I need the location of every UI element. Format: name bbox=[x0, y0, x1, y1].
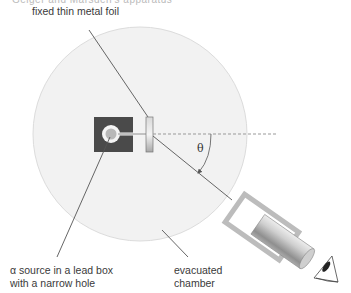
eye-icon bbox=[314, 256, 338, 282]
chamber-label-line2: chamber bbox=[174, 277, 215, 290]
rutherford-scattering-diagram: Geiger and Marsden's apparatus fixed thi… bbox=[0, 0, 351, 293]
source-label-line2: with a narrow hole bbox=[10, 277, 95, 290]
metal-foil bbox=[146, 117, 153, 152]
alpha-source-icon bbox=[106, 129, 117, 140]
chamber-label-line1: evacuated bbox=[174, 264, 222, 277]
source-label-line1: α source in a lead box bbox=[10, 264, 113, 277]
microscope-detector bbox=[225, 194, 320, 275]
angle-label: θ bbox=[197, 142, 204, 155]
foil-label: fixed thin metal foil bbox=[32, 5, 119, 18]
